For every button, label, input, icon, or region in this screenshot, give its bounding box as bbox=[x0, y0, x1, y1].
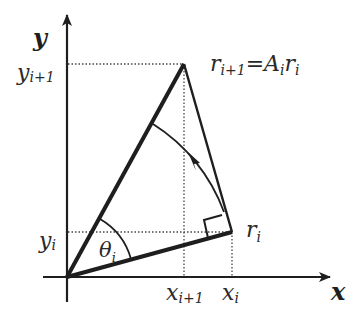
vector-r-i bbox=[67, 232, 232, 277]
theta-i-label: θi bbox=[99, 238, 116, 265]
x-i-base: x bbox=[222, 280, 235, 305]
difference-segment bbox=[184, 64, 232, 232]
r-i-label: ri bbox=[246, 217, 261, 245]
equation-label: ri+1=Airi bbox=[210, 51, 299, 78]
rotation-diagram: y x ri+1=Airi ri θi yi+1 yi xi+1 xi bbox=[0, 0, 364, 316]
x-i1-base: x bbox=[166, 280, 179, 305]
eq-r-sub: i+1 bbox=[221, 62, 246, 78]
x-axis-label: x bbox=[330, 277, 346, 306]
x-i1-sub: i+1 bbox=[178, 290, 203, 306]
rotation-arrowhead-icon bbox=[188, 152, 200, 171]
eq-equals: = bbox=[246, 51, 264, 76]
y-i1-sub: i+1 bbox=[29, 69, 54, 85]
y-i1-base: y bbox=[16, 60, 30, 85]
y-i-label: yi bbox=[38, 228, 56, 253]
theta-base: θ bbox=[99, 238, 112, 262]
eq-A: A bbox=[262, 51, 280, 76]
y-i1-label: yi+1 bbox=[16, 60, 55, 85]
eq-r2-sub: i bbox=[295, 62, 299, 78]
y-i-base: y bbox=[38, 228, 52, 253]
y-axis-label: y bbox=[32, 23, 49, 52]
x-i-label: xi bbox=[222, 280, 239, 306]
theta-sub: i bbox=[112, 250, 116, 265]
x-i1-label: xi+1 bbox=[166, 280, 204, 306]
r-i-sub: i bbox=[257, 229, 261, 245]
y-i-sub: i bbox=[51, 237, 55, 253]
guide-lines bbox=[68, 64, 232, 277]
x-i-sub: i bbox=[234, 290, 238, 306]
